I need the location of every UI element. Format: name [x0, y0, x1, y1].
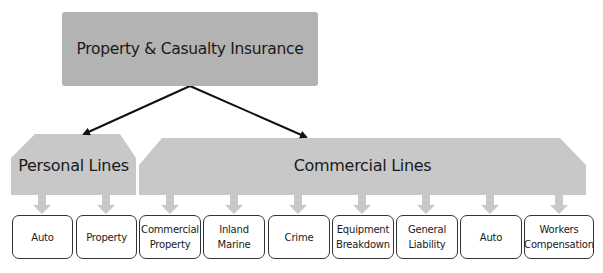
leaf-inland-marine: Inland Marine [203, 215, 265, 259]
arrow-to-personal-lines [84, 86, 190, 134]
leaf-personal-property: Property [76, 215, 137, 259]
leaf-crime: Crime [268, 215, 330, 259]
root-label: Property & Casualty Insurance [76, 40, 303, 58]
category-label: Commercial Lines [294, 156, 432, 175]
category-label: Personal Lines [18, 156, 129, 175]
leaf-arrows [33, 195, 568, 214]
leaf-commercial-auto: Auto [460, 215, 522, 259]
category-commercial-lines: Commercial Lines [139, 152, 586, 178]
root-node-property-casualty: Property & Casualty Insurance [62, 12, 318, 86]
category-personal-lines: Personal Lines [11, 152, 136, 178]
arrow-to-commercial-lines [190, 86, 306, 137]
leaf-general-liability: General Liability [396, 215, 458, 259]
leaf-personal-auto: Auto [12, 215, 73, 259]
leaf-workers-compensation: Workers Compensation [524, 215, 594, 259]
leaf-equipment-breakdown: Equipment Breakdown [332, 215, 394, 259]
leaf-commercial-property: Commercial Property [139, 215, 201, 259]
